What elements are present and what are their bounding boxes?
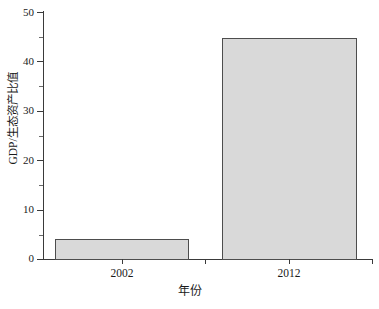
x-tick-mark-2002 — [122, 259, 123, 264]
bar-chart: 50 40 30 20 10 0 2002 2012 GDP/生态资产比值 年份 — [0, 0, 379, 309]
y-tick-label-0: 0 — [12, 253, 34, 264]
x-tick-label-2002: 2002 — [92, 267, 152, 280]
x-tick-mark-mid — [205, 259, 206, 264]
bar-2012 — [222, 38, 357, 260]
x-tick-label-2012: 2012 — [259, 267, 319, 280]
x-tick-mark-2012 — [289, 259, 290, 264]
y-axis-spine — [43, 11, 44, 260]
x-tick-mark-end — [372, 259, 373, 264]
y-tick-label-10: 10 — [12, 204, 34, 215]
y-axis-title: GDP/生态资产比值 — [7, 54, 20, 184]
y-tick-label-50: 50 — [12, 7, 34, 18]
bar-2002 — [55, 239, 189, 260]
x-axis-title: 年份 — [0, 284, 379, 298]
